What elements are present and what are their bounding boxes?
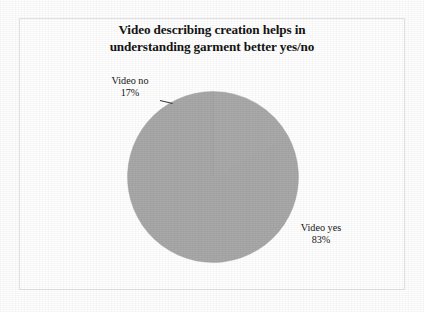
pie-chart xyxy=(127,91,299,263)
pie-label-video-no-value: 17% xyxy=(92,87,168,99)
chart-title: Video describing creation helps in under… xyxy=(40,22,384,55)
pie-label-video-yes-value: 83% xyxy=(288,234,354,246)
chart-title-line-1: Video describing creation helps in xyxy=(40,22,384,39)
chart-title-line-2: understanding garment better yes/no xyxy=(40,39,384,56)
pie-svg xyxy=(127,91,299,263)
chart-figure: Video describing creation helps in under… xyxy=(0,0,424,312)
pie-label-video-no: Video no 17% xyxy=(92,75,168,98)
pie-label-video-yes: Video yes 83% xyxy=(288,222,354,245)
pie-label-video-no-name: Video no xyxy=(92,75,168,87)
pie-label-video-yes-name: Video yes xyxy=(288,222,354,234)
